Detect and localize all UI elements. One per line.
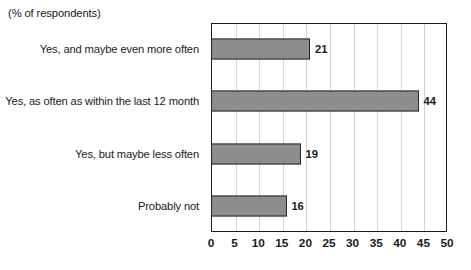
x-tick-label: 40 [393,236,406,250]
chart-row: Yes, as often as within the last 12 mont… [0,75,471,127]
bar[interactable] [211,143,301,164]
bar-value-label: 44 [424,95,436,107]
bar-value-label: 16 [291,200,303,212]
chart-row: Yes, but maybe less often 19 [0,128,471,180]
x-tick-label: 50 [440,236,453,250]
bar-value-label: 19 [306,148,318,160]
category-label: Probably not [0,199,199,214]
x-tick-label: 35 [370,236,383,250]
category-label: Yes, as often as within the last 12 mont… [0,94,199,109]
bar-track: 21 [211,23,471,75]
x-tick-label: 25 [322,236,335,250]
bar-value-label: 21 [315,43,327,55]
x-tick-label: 5 [231,236,238,250]
x-tick-label: 20 [299,236,312,250]
x-tick-label: 10 [252,236,265,250]
x-tick-label: 45 [417,236,430,250]
axis-note: (% of respondents) [8,7,101,19]
x-tick-label: 15 [275,236,288,250]
x-tick-label: 30 [346,236,359,250]
chart-row: Yes, and maybe even more often 21 [0,23,471,75]
category-label: Yes, but maybe less often [0,146,199,161]
bar-track: 16 [211,180,471,232]
bar[interactable] [211,39,310,60]
bar-track: 19 [211,128,471,180]
category-label: Yes, and maybe even more often [0,42,199,57]
bar-chart: (% of respondents) Yes, and maybe even m… [0,0,471,270]
bar-track: 44 [211,75,471,127]
x-tick-label: 0 [208,236,215,250]
chart-row: Probably not 16 [0,180,471,232]
bar[interactable] [211,91,419,112]
x-axis: 0 5 10 15 20 25 30 35 40 45 50 [0,236,471,256]
bar[interactable] [211,195,287,216]
